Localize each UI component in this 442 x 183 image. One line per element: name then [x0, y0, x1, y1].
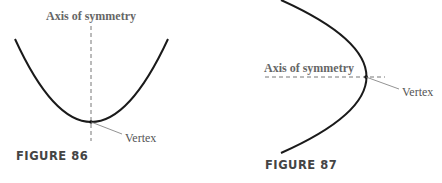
figure-87: Axis of symmetry Vertex FIGURE 87: [264, 0, 433, 172]
figure-caption: FIGURE 86: [16, 149, 88, 163]
axis-label: Axis of symmetry: [46, 9, 136, 23]
vertex-label: Vertex: [125, 131, 156, 145]
vertex-leader-line: [366, 77, 399, 89]
vertex-label: Vertex: [402, 85, 433, 99]
parabola-curve: [15, 39, 168, 122]
vertex-leader-line: [91, 122, 122, 134]
axis-label: Axis of symmetry: [264, 61, 354, 75]
figure-86: Axis of symmetry Vertex FIGURE 86: [15, 9, 168, 163]
diagram-canvas: Axis of symmetry Vertex FIGURE 86 Axis o…: [0, 0, 442, 183]
figure-caption: FIGURE 87: [265, 158, 337, 172]
